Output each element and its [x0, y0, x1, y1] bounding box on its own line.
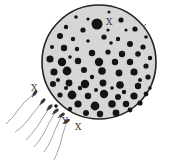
- granule: [86, 17, 89, 20]
- granule: [110, 86, 114, 90]
- granule: [113, 110, 120, 117]
- granule: [81, 67, 87, 73]
- granule: [75, 58, 81, 64]
- granule: [145, 74, 150, 79]
- granule: [80, 27, 85, 32]
- granule: [86, 39, 90, 43]
- granule: [85, 93, 91, 99]
- granule: [124, 28, 127, 31]
- granule: [50, 81, 56, 87]
- label-x: X: [31, 83, 38, 93]
- granule: [61, 45, 67, 51]
- granule: [75, 47, 79, 51]
- granule: [109, 41, 113, 45]
- sperm-cell: [34, 108, 59, 147]
- sperm-tail: [6, 93, 35, 124]
- granule: [64, 25, 68, 29]
- fertilization-diagram: XXYX: [0, 0, 169, 163]
- granule: [115, 94, 121, 100]
- sperm-cell: [15, 98, 46, 132]
- label-y: Y: [61, 116, 69, 126]
- granule: [127, 41, 133, 47]
- granule: [137, 100, 142, 105]
- granule: [83, 110, 89, 116]
- granule: [100, 80, 107, 87]
- granule: [135, 83, 141, 89]
- granule: [81, 80, 89, 88]
- granule: [58, 58, 66, 66]
- granule: [106, 28, 109, 31]
- granule: [94, 88, 98, 92]
- granule: [116, 70, 123, 77]
- granule: [101, 34, 106, 39]
- granule: [105, 49, 110, 54]
- granule: [68, 55, 72, 59]
- granule: [97, 111, 103, 117]
- granule: [116, 81, 124, 89]
- granule: [46, 55, 53, 62]
- label-x: X: [106, 17, 113, 27]
- granule: [144, 92, 149, 97]
- sperm-tail: [15, 101, 43, 132]
- granule: [116, 37, 120, 41]
- granule: [50, 45, 54, 49]
- egg-cell: [42, 5, 156, 119]
- granule: [135, 51, 141, 57]
- granule: [127, 59, 133, 65]
- granule: [128, 108, 133, 113]
- granule: [100, 90, 108, 98]
- granule: [108, 11, 111, 14]
- granule: [68, 107, 72, 111]
- sperm-cell: [6, 89, 38, 124]
- granule: [108, 100, 116, 108]
- granule: [66, 80, 73, 87]
- sperm-tail: [34, 111, 56, 147]
- granule: [122, 90, 126, 94]
- granule: [54, 104, 58, 108]
- granule: [132, 26, 137, 31]
- granule: [64, 86, 68, 90]
- granule: [71, 37, 75, 41]
- granule: [57, 33, 63, 39]
- granule: [74, 15, 78, 19]
- granule: [148, 56, 152, 60]
- granule: [78, 86, 82, 90]
- granule: [119, 51, 125, 57]
- granule: [148, 86, 152, 90]
- granule: [90, 75, 94, 79]
- granule: [74, 100, 81, 107]
- sperm-tail: [26, 107, 50, 140]
- granule: [92, 19, 103, 30]
- granule: [56, 78, 60, 82]
- granule: [57, 92, 62, 97]
- granule: [118, 17, 123, 22]
- granule: [140, 44, 145, 49]
- granule: [95, 58, 103, 66]
- granule: [91, 102, 100, 111]
- granule: [130, 68, 137, 75]
- granule: [63, 67, 72, 76]
- granule: [89, 50, 95, 56]
- granule: [138, 78, 142, 82]
- granule: [50, 68, 57, 75]
- label-x: X: [75, 122, 82, 132]
- granule: [130, 92, 137, 99]
- granule: [112, 59, 118, 65]
- granule: [144, 35, 148, 39]
- granule: [123, 101, 129, 107]
- granule: [98, 67, 106, 75]
- granule: [143, 63, 148, 68]
- granule: [68, 91, 77, 100]
